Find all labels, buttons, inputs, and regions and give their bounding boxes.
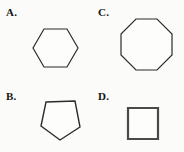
hexagon-polygon xyxy=(33,29,78,67)
pentagon-polygon xyxy=(41,101,80,140)
choice-b-label: B. xyxy=(6,91,17,102)
square-polygon xyxy=(128,108,158,139)
polygon-choice-worksheet: A. C. B. D. xyxy=(0,0,184,152)
hexagon-shape[interactable] xyxy=(33,29,79,67)
octagon-shape[interactable] xyxy=(121,19,173,71)
choice-d-label: D. xyxy=(98,91,109,102)
octagon-polygon xyxy=(121,19,172,70)
choice-c-label: C. xyxy=(98,7,109,18)
choice-a-label: A. xyxy=(6,7,17,18)
square-shape[interactable] xyxy=(128,108,161,142)
pentagon-shape[interactable] xyxy=(41,101,81,141)
